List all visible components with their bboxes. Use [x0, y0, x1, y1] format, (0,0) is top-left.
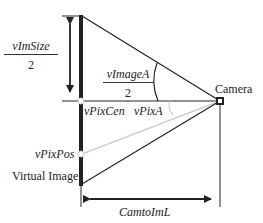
image-size-fraction: vImSize 2 [4, 40, 58, 71]
camera-label: Camera [215, 83, 252, 95]
pixel-position-label: vPixPos [35, 148, 74, 160]
image-size-numerator: vImSize [4, 40, 58, 55]
image-angle-denominator: 2 [103, 83, 153, 99]
pixel-angle-arc [169, 101, 173, 115]
image-angle-numerator: vImageA [103, 68, 153, 83]
virtual-image-label: Virtual Image [12, 170, 78, 182]
cam-to-image-label: CamtoImL [119, 206, 170, 218]
diagram-canvas [0, 0, 263, 223]
pixel-angle-label: vPixA [134, 105, 163, 117]
image-size-denominator: 2 [4, 55, 58, 71]
pixel-center-label: vPixCen [84, 105, 125, 117]
pixel-position-point [78, 151, 84, 157]
camera-icon [217, 98, 223, 104]
image-angle-fraction: vImageA 2 [103, 68, 153, 99]
image-angle-arc [154, 63, 158, 101]
